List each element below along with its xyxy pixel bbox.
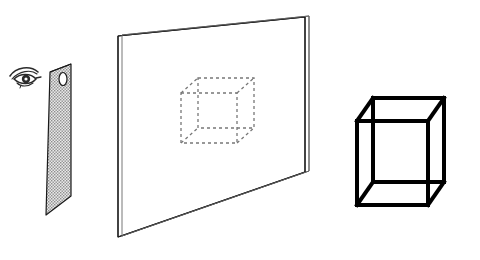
aperture-panel	[46, 64, 71, 215]
perception-diagram	[0, 0, 480, 260]
eye-icon	[10, 68, 41, 88]
projection-screen	[118, 16, 309, 237]
figure-root	[0, 0, 480, 260]
solid-cube	[357, 98, 444, 205]
aperture-hole	[59, 73, 67, 86]
